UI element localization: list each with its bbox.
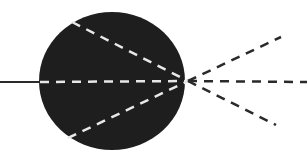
diagram-canvas [0, 0, 307, 154]
lens-ray-diagram [0, 0, 307, 154]
outgoing-ray-3 [188, 81, 276, 125]
outgoing-rays [188, 37, 307, 125]
outgoing-ray-2 [188, 81, 307, 82]
outgoing-ray-1 [188, 37, 281, 81]
